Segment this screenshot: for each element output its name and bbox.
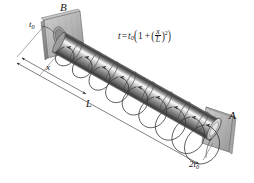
label-support-a: A [229, 110, 236, 121]
eq-frac-denominator: L [155, 36, 161, 44]
t0-subscript: 0 [32, 24, 35, 30]
figure-canvas: B A t0 2t0 x L t=t0(1+(xL)2) [0, 0, 254, 183]
label-support-b: B [60, 2, 67, 13]
label-thickness-t0: t0 [29, 20, 35, 30]
eq-open-paren: ( [134, 28, 137, 43]
label-dimension-L: L [86, 99, 92, 109]
torque-equation: t=t0(1+(xL)2) [118, 28, 171, 45]
label-dimension-x: x [46, 63, 50, 72]
eq-one: 1 [137, 31, 144, 41]
shaft-body [52, 32, 221, 141]
eq-equals: = [121, 31, 128, 41]
eq-fraction: xL [155, 28, 161, 45]
label-thickness-2t0: 2t0 [189, 160, 199, 170]
eq-close-paren: ) [168, 28, 171, 43]
eq-plus: + [144, 31, 151, 41]
eq-inner-close-paren: ) [162, 29, 165, 42]
t0-subscript-right: 0 [196, 164, 199, 170]
